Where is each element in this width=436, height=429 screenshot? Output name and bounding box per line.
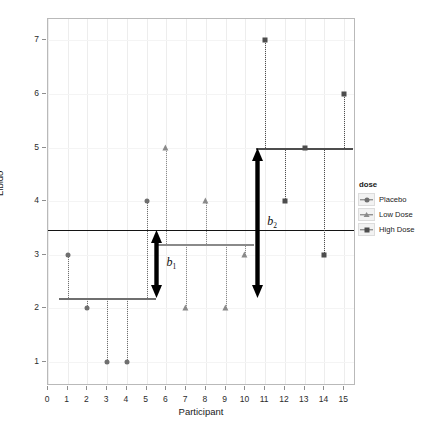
x-tick-mark (225, 386, 226, 390)
annotation-arrow-b2 (250, 148, 265, 298)
data-point-square (263, 38, 268, 43)
grand-mean-line (48, 230, 354, 232)
gridline-horizontal (48, 94, 354, 95)
x-tick-label: 8 (196, 394, 214, 404)
x-tick-label: 13 (295, 394, 313, 404)
x-tick-mark (264, 386, 265, 390)
x-tick-label: 12 (275, 394, 293, 404)
x-tick-mark (165, 386, 166, 390)
data-point-square (282, 199, 287, 204)
x-tick-label: 0 (38, 394, 56, 404)
group-mean-line (158, 244, 255, 246)
legend-item-high-dose[interactable]: High Dose (358, 222, 432, 237)
drop-line (285, 148, 286, 202)
gridline-horizontal (48, 40, 354, 41)
drop-line (206, 201, 207, 244)
annotation-label-b2: b2 (267, 214, 277, 230)
drop-line (68, 255, 69, 298)
drop-line (127, 298, 128, 362)
x-tick-label: 4 (117, 394, 135, 404)
plot-area: b1b2 (47, 18, 355, 385)
legend-label: High Dose (379, 225, 414, 234)
legend-title: dose (358, 180, 432, 189)
legend: dose PlaceboLow DoseHigh Dose (358, 180, 432, 237)
y-tick-mark (42, 93, 46, 94)
x-tick-label: 10 (235, 394, 253, 404)
data-point-circle (144, 199, 149, 204)
y-tick-mark (42, 147, 46, 148)
y-tick-label: 2 (25, 302, 39, 312)
data-point-circle (124, 359, 129, 364)
x-tick-mark (106, 386, 107, 390)
y-tick-mark (42, 307, 46, 308)
y-tick-label: 3 (25, 249, 39, 259)
data-point-circle (65, 252, 70, 257)
y-tick-label: 7 (25, 34, 39, 44)
drop-line (324, 148, 325, 255)
data-point-triangle (242, 251, 248, 257)
annotation-arrow-b1 (149, 230, 164, 298)
legend-key-square-icon (358, 223, 375, 236)
x-tick-label: 3 (97, 394, 115, 404)
x-tick-mark (126, 386, 127, 390)
data-point-square (342, 92, 347, 97)
drop-line (166, 148, 167, 244)
legend-key-circle-icon (358, 193, 375, 206)
x-tick-label: 9 (216, 394, 234, 404)
y-tick-label: 6 (25, 88, 39, 98)
data-point-triangle (183, 305, 189, 311)
y-tick-mark (42, 361, 46, 362)
y-tick-label: 5 (25, 142, 39, 152)
x-tick-mark (47, 386, 48, 390)
chart-root: Libido 1234567 b1b2 01234567891011121314… (0, 0, 436, 429)
x-tick-mark (244, 386, 245, 390)
x-tick-label: 6 (156, 394, 174, 404)
y-axis-title: Libido (0, 171, 5, 196)
gridline-horizontal (48, 255, 354, 256)
drop-line (226, 244, 227, 308)
drop-line (107, 298, 108, 362)
x-tick-mark (146, 386, 147, 390)
x-tick-label: 2 (77, 394, 95, 404)
y-tick-mark (42, 254, 46, 255)
x-tick-label: 7 (176, 394, 194, 404)
drop-line (344, 94, 345, 148)
drop-line (147, 201, 148, 297)
legend-items: PlaceboLow DoseHigh Dose (358, 192, 432, 237)
y-tick-mark (42, 39, 46, 40)
data-point-square (322, 252, 327, 257)
legend-label: Placebo (379, 195, 406, 204)
annotation-label-b1: b1 (167, 255, 177, 271)
x-tick-label: 11 (255, 394, 273, 404)
gridline-horizontal (48, 362, 354, 363)
data-point-triangle (222, 305, 228, 311)
x-tick-mark (185, 386, 186, 390)
drop-line (186, 244, 187, 308)
x-tick-mark (343, 386, 344, 390)
data-point-triangle (202, 198, 208, 204)
x-tick-label: 14 (314, 394, 332, 404)
legend-item-low-dose[interactable]: Low Dose (358, 207, 432, 222)
x-tick-mark (323, 386, 324, 390)
legend-item-placebo[interactable]: Placebo (358, 192, 432, 207)
legend-key-triangle-icon (358, 208, 375, 221)
y-tick-label: 1 (25, 356, 39, 366)
drop-line (265, 40, 266, 147)
legend-label: Low Dose (379, 210, 413, 219)
x-tick-mark (67, 386, 68, 390)
data-point-circle (85, 306, 90, 311)
data-point-triangle (163, 144, 169, 150)
gridline-horizontal (48, 308, 354, 309)
data-point-square (302, 145, 307, 150)
y-tick-label: 4 (25, 195, 39, 205)
x-tick-label: 1 (58, 394, 76, 404)
x-tick-mark (86, 386, 87, 390)
x-tick-label: 15 (334, 394, 352, 404)
y-tick-mark (42, 200, 46, 201)
data-point-circle (105, 359, 110, 364)
x-tick-mark (205, 386, 206, 390)
x-tick-label: 5 (137, 394, 155, 404)
gridline-horizontal (48, 201, 354, 202)
x-tick-mark (304, 386, 305, 390)
x-axis-title: Participant (47, 406, 355, 417)
